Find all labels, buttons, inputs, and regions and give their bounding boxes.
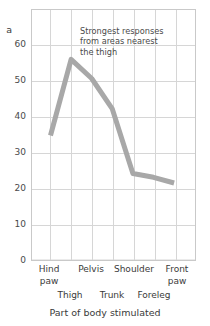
annotation-line-3: the thigh [80,47,204,57]
x-axis-labels-upper: Hind paw Pelvis Shoulder Front paw [0,264,210,290]
x-label-line1: Foreleg [137,290,170,300]
x-label-trunk: Trunk [92,290,132,302]
y-tick-label: 50 [2,76,26,85]
x-label-line1: Trunk [100,290,125,300]
annotation-line-1: Strongest responses [80,26,204,36]
x-axis-labels-lower: Thigh Trunk Foreleg [0,290,210,304]
x-axis-title: Part of body stimulated [0,307,210,318]
peak-annotation: Strongest responses from areas nearest t… [80,26,204,57]
x-label-line2: paw [157,276,197,288]
y-tick-label: 30 [2,148,26,157]
y-tick-label: 40 [2,112,26,121]
x-label-line1: Front [166,264,189,274]
y-tick-label: 10 [2,220,26,229]
x-label-line1: Pelvis [78,264,104,274]
x-label-front-paw: Front paw [157,264,197,287]
x-label-line1: Thigh [57,290,82,300]
y-tick-label: 60 [2,40,26,49]
x-label-shoulder: Shoulder [110,264,158,276]
x-label-line2: paw [29,276,69,288]
x-label-pelvis: Pelvis [71,264,111,276]
x-label-line1: Hind [39,264,60,274]
chart-figure: a 60 50 40 30 20 10 0 [0,0,210,326]
y-tick-label: 20 [2,184,26,193]
x-label-thigh: Thigh [50,290,90,302]
x-label-foreleg: Foreleg [132,290,176,302]
annotation-line-2: from areas nearest [80,36,204,46]
x-label-hind-paw: Hind paw [29,264,69,287]
x-label-line1: Shoulder [114,264,154,274]
